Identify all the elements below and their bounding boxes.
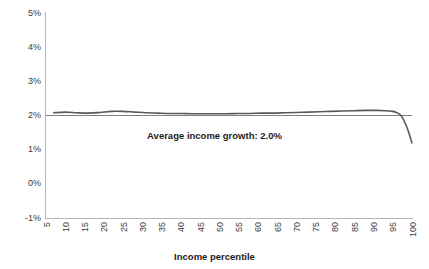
income-growth-chart: 5%4%3%2%1%0%-1% 510152025303540455055606… [0, 0, 429, 269]
x-axis-title: Income percentile [0, 251, 429, 262]
average-income-growth-annotation: Average income growth: 2.0% [0, 130, 429, 141]
